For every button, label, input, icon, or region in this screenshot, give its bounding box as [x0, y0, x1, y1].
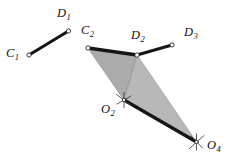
linkage-figure: C1 D1 C2 D2 D3 O2 O4 — [0, 0, 229, 163]
joint-c2 — [86, 46, 90, 50]
link-d2-d3 — [137, 45, 172, 55]
rigid-bodies-group — [88, 48, 197, 142]
label-o4: O4 — [207, 139, 220, 152]
linkage-drawing-canvas — [0, 0, 229, 163]
label-d1: D1 — [57, 7, 70, 20]
label-o2-subscript: 2 — [111, 108, 115, 118]
label-c2-letter: C — [81, 23, 89, 37]
label-d2-letter: D — [131, 28, 140, 42]
label-d1-subscript: 1 — [67, 12, 71, 22]
label-o2-letter: O — [101, 102, 110, 116]
label-d2-subscript: 2 — [141, 34, 145, 44]
label-d3-letter: D — [184, 25, 193, 39]
ground-pivot-o4 — [190, 134, 205, 150]
label-d3-subscript: 3 — [194, 31, 198, 41]
triangle-d2-o2-o4 — [124, 55, 197, 142]
label-d2: D2 — [131, 29, 144, 42]
label-o4-letter: O — [207, 138, 216, 152]
label-c2-subscript: 2 — [90, 29, 94, 39]
label-c1-letter: C — [6, 46, 14, 60]
joint-d2 — [135, 53, 139, 57]
label-c1-subscript: 1 — [15, 52, 19, 62]
label-d1-letter: D — [57, 6, 66, 20]
joint-d1 — [66, 29, 70, 33]
label-o2: O2 — [101, 103, 114, 116]
joint-d3 — [170, 43, 174, 47]
link-c1-d1 — [29, 31, 69, 55]
joint-c1 — [27, 53, 31, 57]
label-o4-subscript: 4 — [217, 144, 221, 154]
label-d3: D3 — [184, 26, 197, 39]
label-c1: C1 — [6, 47, 19, 60]
label-c2: C2 — [81, 24, 94, 37]
